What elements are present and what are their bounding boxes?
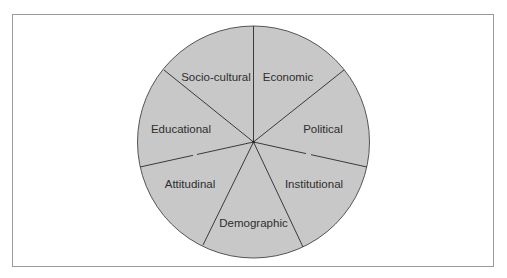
- label-demographic: Demographic: [219, 217, 288, 229]
- label-economic: Economic: [263, 71, 314, 83]
- center-point: [252, 141, 255, 144]
- label-political: Political: [303, 123, 343, 135]
- segmented-circle-diagram: Economic Political Institutional Demogra…: [0, 0, 507, 278]
- label-socio-cultural: Socio-cultural: [181, 71, 251, 83]
- label-educational: Educational: [151, 123, 211, 135]
- label-attitudinal: Attitudinal: [165, 178, 216, 190]
- label-institutional: Institutional: [285, 178, 343, 190]
